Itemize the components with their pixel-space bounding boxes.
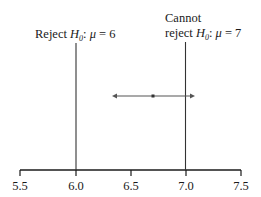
- right-arrow-icon: [190, 94, 195, 99]
- confidence-interval: [112, 94, 195, 99]
- confidence-interval-chart: 5.5 6.0 6.5 7.0 7.5 Reject H0: μ = 6 Can…: [0, 0, 261, 197]
- tick-label-6.5: 6.5: [123, 179, 139, 193]
- label-cannot-reject-h0-mu-7: reject H0: μ = 7: [165, 26, 241, 42]
- left-arrow-icon: [112, 94, 117, 99]
- x-axis-ticks: [20, 170, 241, 176]
- point-estimate-marker: [152, 95, 155, 98]
- label-reject-h0-mu-6: Reject H0: μ = 6: [35, 27, 116, 43]
- tick-label-5.5: 5.5: [12, 179, 28, 193]
- tick-label-7.5: 7.5: [233, 179, 249, 193]
- label-cannot: Cannot: [165, 11, 202, 25]
- x-tick-labels: 5.5 6.0 6.5 7.0 7.5: [12, 179, 249, 193]
- tick-label-7.0: 7.0: [178, 179, 194, 193]
- tick-label-6.0: 6.0: [68, 179, 84, 193]
